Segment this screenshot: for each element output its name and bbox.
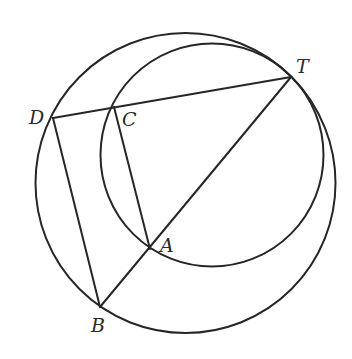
segment-DB: [53, 118, 100, 307]
diagram-canvas: T D C A B: [0, 0, 352, 359]
label-T: T: [296, 55, 310, 77]
label-B: B: [90, 314, 105, 336]
label-A: A: [158, 234, 174, 256]
label-C: C: [122, 108, 137, 130]
label-D: D: [28, 106, 44, 128]
geometry-diagram: T D C A B: [0, 0, 352, 359]
segment-DT: [53, 77, 291, 118]
